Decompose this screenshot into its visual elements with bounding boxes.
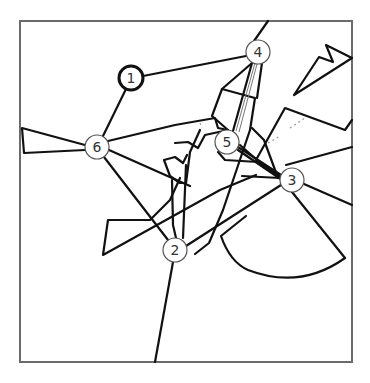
obstacle-lines [22, 21, 352, 362]
edge-1-4 [143, 56, 246, 76]
node-label: 5 [223, 134, 232, 150]
node-6[interactable]: 6 [85, 135, 109, 159]
node-2[interactable]: 2 [163, 238, 187, 262]
node-3[interactable]: 3 [280, 168, 304, 192]
node-4[interactable]: 4 [246, 40, 270, 64]
node-5[interactable]: 5 [215, 130, 239, 154]
node-1[interactable]: 1 [119, 66, 143, 90]
graph-nodes: 1 2 3 4 5 6 [85, 40, 304, 262]
edge-6-2 [104, 157, 168, 240]
diagram-canvas: 1 2 3 4 5 6 [0, 0, 370, 383]
node-label: 6 [93, 139, 102, 155]
node-label: 2 [171, 242, 180, 258]
node-label: 4 [254, 44, 263, 60]
edge-1-6 [103, 89, 126, 136]
node-label: 1 [127, 70, 136, 86]
node-label: 3 [288, 172, 297, 188]
